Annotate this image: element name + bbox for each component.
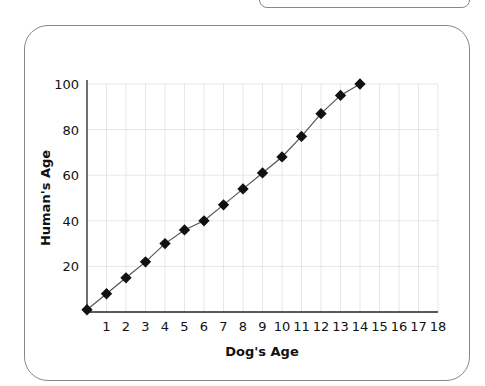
x-tick-label: 5: [180, 319, 188, 334]
y-tick-label: 60: [62, 168, 79, 183]
x-tick-label: 17: [410, 319, 427, 334]
x-tick-label: 2: [122, 319, 130, 334]
x-tick-label: 7: [219, 319, 227, 334]
x-tick-label: 8: [239, 319, 247, 334]
tick-labels: 12345678910111213141516171820406080100: [54, 77, 446, 334]
y-tick-label: 80: [62, 123, 79, 138]
x-tick-label: 10: [274, 319, 291, 334]
y-tick-label: 20: [62, 259, 79, 274]
x-tick-label: 16: [391, 319, 408, 334]
x-tick-label: 3: [141, 319, 149, 334]
x-tick-label: 4: [161, 319, 169, 334]
data-point-marker: [179, 224, 190, 235]
x-tick-label: 9: [258, 319, 266, 334]
y-tick-label: 40: [62, 214, 79, 229]
grid-lines: [87, 84, 438, 312]
y-tick-label: 100: [54, 77, 79, 92]
x-tick-label: 6: [200, 319, 208, 334]
y-axis-label: Human's Age: [38, 150, 53, 246]
data-point-marker: [354, 78, 365, 89]
x-tick-label: 11: [293, 319, 310, 334]
x-tick-label: 18: [430, 319, 447, 334]
x-tick-label: 15: [371, 319, 388, 334]
x-tick-label: 12: [313, 319, 330, 334]
x-tick-label: 1: [102, 319, 110, 334]
x-tick-label: 13: [332, 319, 349, 334]
line-chart: 12345678910111213141516171820406080100 D…: [0, 0, 485, 386]
x-axis-label: Dog's Age: [225, 344, 299, 359]
x-tick-label: 14: [352, 319, 369, 334]
